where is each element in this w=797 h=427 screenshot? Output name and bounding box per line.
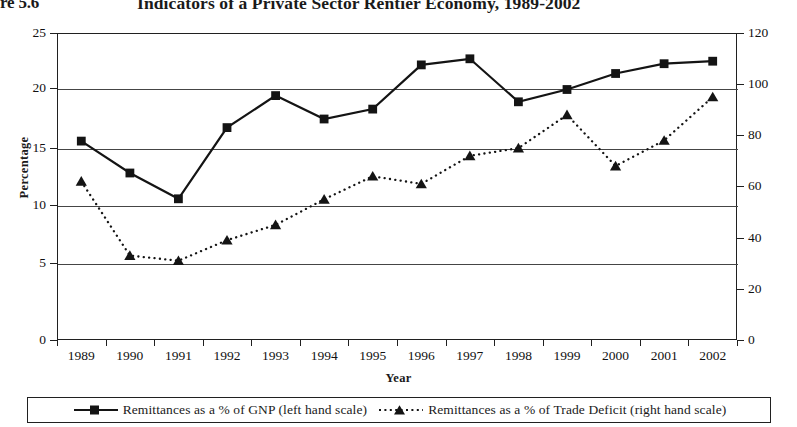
- x-axis-tickmark: [543, 340, 544, 346]
- y-left-tick-label: 0: [2, 332, 46, 348]
- figure-title-row: re 5.6 Indicators of a Private Sector Re…: [0, 0, 797, 17]
- square-marker-icon: [74, 404, 118, 416]
- gridline-15: [58, 149, 738, 150]
- y-left-tick-label: 15: [2, 140, 46, 156]
- y-right-tick-label: 60: [748, 178, 794, 194]
- figure-number: re 5.6: [0, 0, 39, 13]
- legend-label-gnp: Remittances as a % of GNP (left hand sca…: [123, 402, 367, 418]
- y-right-tick-label: 0: [748, 332, 794, 348]
- legend-label-trade-deficit: Remittances as a % of Trade Deficit (rig…: [428, 402, 726, 418]
- y-right-tick-label: 80: [748, 127, 794, 143]
- x-axis-tickmark: [446, 340, 447, 346]
- x-axis-tickmark: [300, 340, 301, 346]
- page-title: Indicators of a Private Sector Rentier E…: [137, 0, 580, 14]
- x-axis-tickmark: [688, 340, 689, 346]
- triangle-marker-icon: [379, 404, 423, 416]
- x-axis-tickmark: [251, 340, 252, 346]
- y-right-tickmark: [737, 186, 744, 187]
- legend-item-gnp: Remittances as a % of GNP (left hand sca…: [74, 402, 367, 418]
- y-right-tickmark: [737, 33, 744, 34]
- y-left-tickmark: [50, 340, 57, 341]
- y-right-tickmark: [737, 340, 744, 341]
- x-axis-tickmark: [348, 340, 349, 346]
- x-axis-tickmark: [640, 340, 641, 346]
- x-axis-tickmark: [203, 340, 204, 346]
- x-axis-tickmark: [106, 340, 107, 346]
- x-axis-tickmark: [737, 340, 738, 346]
- gridline-20: [58, 89, 738, 90]
- y-right-tickmark: [737, 84, 744, 85]
- x-axis-tickmark: [397, 340, 398, 346]
- y-left-tickmark: [50, 33, 57, 34]
- x-axis-title: Year: [0, 371, 797, 386]
- y-right-tickmark: [737, 238, 744, 239]
- x-axis-tickmark: [154, 340, 155, 346]
- y-right-tickmark: [737, 289, 744, 290]
- y-left-tickmark: [50, 263, 57, 264]
- y-left-tick-label: 25: [2, 25, 46, 41]
- y-left-tickmark: [50, 88, 57, 89]
- y-right-tick-label: 120: [748, 25, 794, 41]
- y-right-tick-label: 20: [748, 281, 794, 297]
- y-left-tickmark: [50, 148, 57, 149]
- x-axis-tickmark: [57, 340, 58, 346]
- y-left-tick-label: 5: [2, 255, 46, 271]
- y-right-tick-label: 40: [748, 230, 794, 246]
- y-right-tick-label: 100: [748, 76, 794, 92]
- y-left-tick-label: 10: [2, 197, 46, 213]
- plot-area: [57, 33, 737, 340]
- x-axis-tick-label: 2002: [685, 348, 741, 364]
- gridline-5: [58, 264, 738, 265]
- y-right-tickmark: [737, 135, 744, 136]
- y-left-tick-label: 20: [2, 80, 46, 96]
- x-axis-tickmark: [591, 340, 592, 346]
- legend-item-trade-deficit: Remittances as a % of Trade Deficit (rig…: [379, 402, 726, 418]
- gridline-10: [58, 206, 738, 207]
- legend: Remittances as a % of GNP (left hand sca…: [27, 397, 771, 423]
- x-axis-tickmark: [494, 340, 495, 346]
- y-left-tickmark: [50, 205, 57, 206]
- chart-figure: re 5.6 Indicators of a Private Sector Re…: [0, 0, 797, 427]
